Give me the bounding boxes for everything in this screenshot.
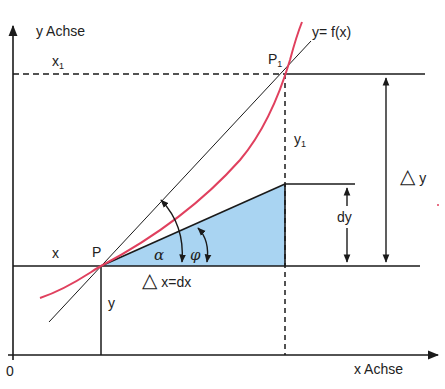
alpha-label: α <box>154 248 164 263</box>
y1-label: y1 <box>294 132 306 149</box>
x-label: x <box>52 246 59 260</box>
origin-label: 0 <box>6 364 14 378</box>
y-axis-label: y Achse <box>36 24 85 38</box>
curve-label: y= f(x) <box>312 25 351 39</box>
p1-label: P1 <box>268 52 282 69</box>
x-axis-label: x Achse <box>354 362 403 376</box>
p-label: P <box>92 245 101 259</box>
delta-y-label: △ y <box>400 166 426 186</box>
x1-label: x1 <box>52 54 64 71</box>
stray-dot <box>437 204 439 206</box>
dy-label: dy <box>337 210 352 224</box>
phi-label: φ <box>190 248 201 263</box>
delta-x-label: △ x=dx <box>142 270 191 290</box>
y-label: y <box>108 296 115 310</box>
diagram-canvas <box>0 0 445 389</box>
